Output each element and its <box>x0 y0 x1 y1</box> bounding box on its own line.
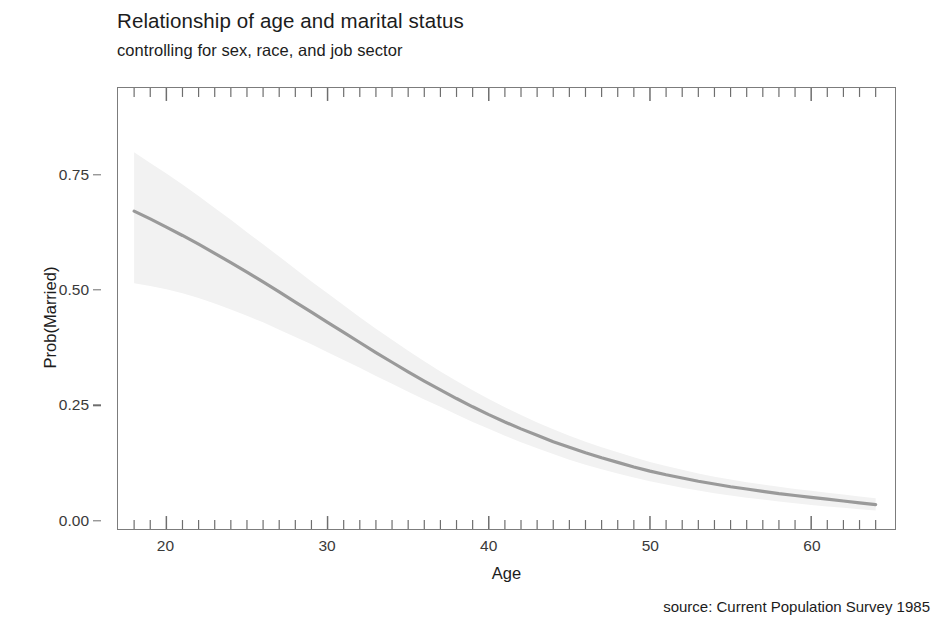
y-tick-mark <box>93 289 101 290</box>
x-tick-label: 40 <box>480 537 497 555</box>
chart-figure: Relationship of age and marital status c… <box>0 0 942 644</box>
page-title: Relationship of age and marital status <box>117 8 897 34</box>
y-tick-mark <box>93 405 101 406</box>
x-tick-label: 60 <box>803 537 820 555</box>
x-axis-tick-labels: 2030405060 <box>117 537 896 561</box>
x-tick-label: 50 <box>642 537 659 555</box>
y-tick-label: 0.50 <box>59 281 89 299</box>
confidence-ribbon <box>134 152 876 510</box>
y-tick-mark <box>93 174 101 175</box>
plot-panel <box>117 87 896 530</box>
y-tick-label: 0.75 <box>59 166 89 184</box>
confidence-ribbon-group <box>134 152 876 510</box>
y-tick-label: 0.00 <box>59 512 89 530</box>
x-axis-label: Age <box>117 564 896 583</box>
y-axis-label: Prob(Married) <box>41 208 60 428</box>
y-tick-label: 0.25 <box>59 396 89 414</box>
x-tick-label: 30 <box>318 537 335 555</box>
source-caption: source: Current Population Survey 1985 <box>663 598 930 615</box>
y-tick-mark <box>93 520 101 521</box>
x-tick-label: 20 <box>157 537 174 555</box>
title-block: Relationship of age and marital status c… <box>117 8 897 61</box>
chart-subtitle: controlling for sex, race, and job secto… <box>117 40 897 61</box>
plot-svg <box>118 88 895 529</box>
